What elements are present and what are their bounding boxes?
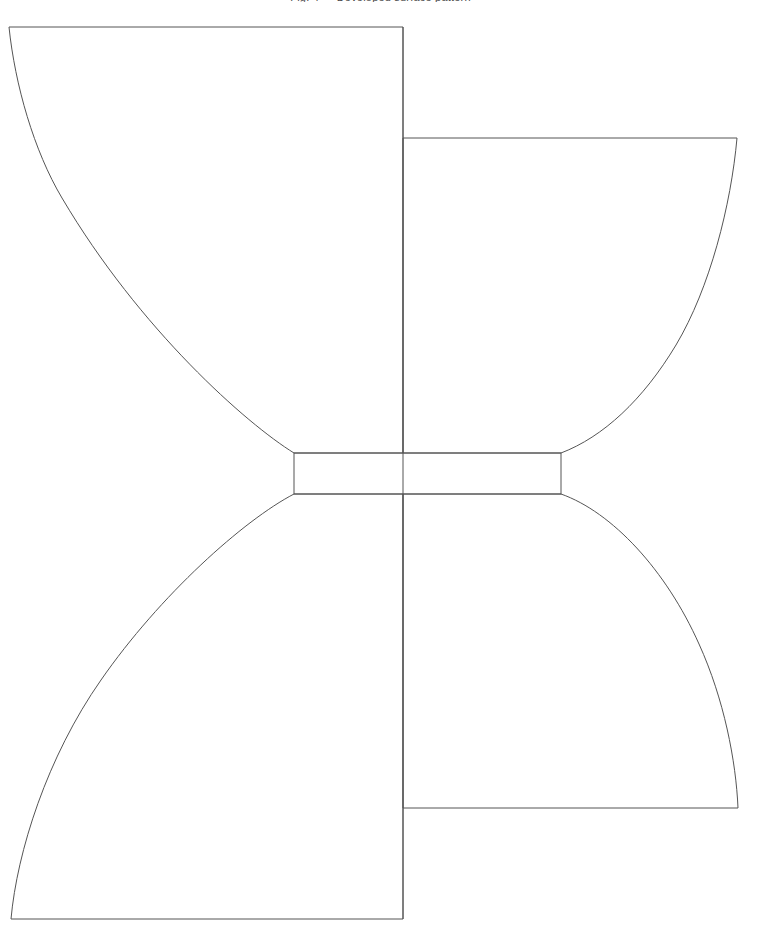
lower-right-panel — [403, 494, 738, 808]
lower-left-panel — [11, 494, 403, 919]
upper-right-panel — [403, 138, 737, 453]
upper-left-panel — [9, 27, 403, 453]
drawing-canvas: Fig. 4 — Developed surface pattern — [0, 0, 761, 941]
center-neck-rectangle — [294, 453, 561, 494]
geometric-figure — [0, 0, 761, 941]
